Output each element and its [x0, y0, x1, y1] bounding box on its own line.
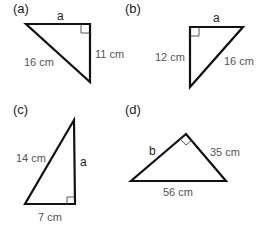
- right-angle-marker: [190, 27, 199, 36]
- side-label-a-right: 11 cm: [95, 48, 124, 60]
- panel-label-a: (a): [13, 1, 29, 16]
- panel-b: (b) a 12 cm 16 cm: [125, 1, 254, 87]
- panel-d: (d) b 35 cm 56 cm: [125, 102, 240, 198]
- triangles-diagram: (a) a 11 cm 16 cm (b) a 12 cm 16 cm (c) …: [0, 0, 256, 228]
- panel-label-b: (b): [125, 1, 141, 16]
- side-label-c-hypotenuse: 14 cm: [16, 152, 46, 164]
- side-label-d-right: 35 cm: [210, 146, 240, 158]
- side-label-d-left: b: [149, 144, 156, 158]
- side-label-a-hypotenuse: 16 cm: [24, 56, 54, 68]
- side-label-d-bottom: 56 cm: [163, 186, 193, 198]
- side-label-c-right: a: [80, 155, 87, 169]
- side-label-b-hypotenuse: 16 cm: [224, 55, 254, 67]
- panel-label-c: (c): [13, 102, 28, 117]
- side-label-a-top: a: [57, 9, 64, 23]
- side-label-b-top: a: [213, 11, 220, 25]
- side-label-b-left: 12 cm: [155, 51, 185, 63]
- triangle-a: [26, 24, 90, 82]
- side-label-c-bottom: 7 cm: [38, 211, 62, 223]
- panel-c: (c) 14 cm a 7 cm: [13, 102, 87, 223]
- right-angle-marker: [81, 24, 90, 33]
- panel-a: (a) a 11 cm 16 cm: [13, 1, 124, 82]
- panel-label-d: (d): [125, 102, 141, 117]
